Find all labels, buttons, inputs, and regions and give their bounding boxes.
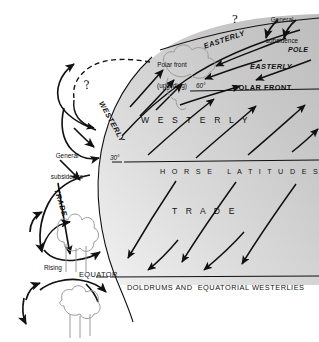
thirty-degree-label: 30°	[110, 155, 120, 162]
equator-label: EQUATOR	[79, 271, 118, 279]
easterly-band-label: EASTERLY	[250, 63, 292, 71]
equatorial-cell-south	[23, 279, 106, 324]
pole-label: POLE	[288, 46, 308, 53]
doldrums-label: DOLDRUMS AND EQUATORIAL WESTERLIES	[127, 284, 305, 292]
annotation-general-subsidence-horse: General subsidence	[38, 140, 96, 194]
polar-cell-solid-return	[74, 100, 94, 128]
trade-band-label: T R A D E	[172, 207, 237, 216]
annotation-polar-front-upgliding: Polar front (upgliding)	[142, 49, 202, 103]
annotation-rising: Rising	[44, 265, 62, 272]
equator-cloud-south	[60, 286, 100, 319]
circulation-diagram: General subsidence ? ? POLE EASTERLY EAS…	[0, 0, 319, 342]
polar-front-line-label: POLAR FRONT	[233, 84, 292, 92]
horse-latitudes-label: H O R S E L A T I T U D E S	[160, 168, 319, 176]
westerly-band-label: W E S T E R L Y	[141, 116, 251, 125]
question-mark-upper-icon: ?	[232, 12, 238, 26]
sixty-degree-label: 60°	[196, 83, 206, 90]
